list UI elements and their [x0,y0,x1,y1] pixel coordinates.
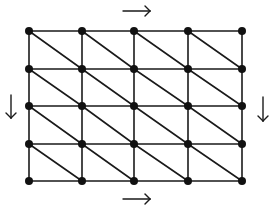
diagonal-edge [188,31,242,69]
top-arrow-head [145,11,150,16]
bottom-arrow-head [145,199,150,204]
vertex-node [184,65,192,73]
diagonal-edge [188,69,242,106]
diagonal-edge [29,106,82,144]
vertex-node [78,65,86,73]
right-arrow-head [263,116,268,121]
left-arrow-head [6,113,11,118]
diagonal-edge [29,31,82,69]
vertex-node [238,27,246,35]
vertex-node [78,27,86,35]
left-arrow-head [11,113,16,118]
left-arrow-icon [6,95,16,118]
vertex-node [78,102,86,110]
vertex-node [130,65,138,73]
triangulated-grid-diagram [0,0,271,207]
vertex-node [238,102,246,110]
vertex-node [130,140,138,148]
diagonal-edge [82,106,134,144]
vertex-node [130,102,138,110]
diagonal-edge [82,69,134,106]
diagonal-edge [29,69,82,106]
vertex-node [238,177,246,185]
vertex-node [25,65,33,73]
vertex-node [130,27,138,35]
diagonal-edge [82,144,134,181]
vertex-node [184,140,192,148]
vertex-node [130,177,138,185]
vertex-node [78,140,86,148]
diagonal-edge [134,144,188,181]
vertex-node [238,65,246,73]
vertex-node [184,102,192,110]
right-arrow-icon [258,97,268,121]
vertex-node [184,177,192,185]
diagram-canvas [0,0,271,207]
diagonal-edge [188,144,242,181]
diagonal-edge [134,106,188,144]
diagonal-edge [188,106,242,144]
bottom-arrow-icon [123,194,150,204]
diagonal-edge [82,31,134,69]
diagonal-edge [29,144,82,181]
diagonal-edge [134,69,188,106]
vertex-node [238,140,246,148]
vertex-node [25,27,33,35]
vertex-node [25,140,33,148]
diagonal-edge [134,31,188,69]
right-arrow-head [258,116,263,121]
vertex-node [25,177,33,185]
top-arrow-icon [123,6,150,16]
top-arrow-head [145,6,150,11]
vertex-node [25,102,33,110]
vertex-node [184,27,192,35]
vertex-node [78,177,86,185]
bottom-arrow-head [145,194,150,199]
